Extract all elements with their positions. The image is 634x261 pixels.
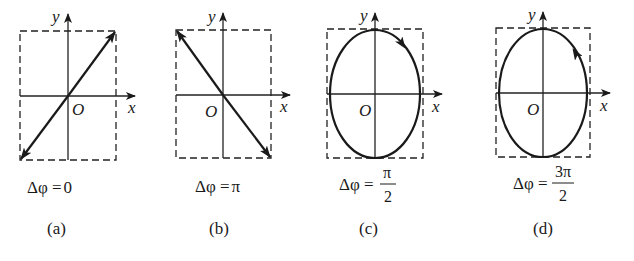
panel-caption: (d) [533,219,553,238]
x-axis-label: x [599,96,608,115]
origin-label: O [359,101,371,120]
x-axis-label: x [279,97,288,116]
panel-caption: (c) [359,219,378,238]
trajectory-line-up [68,32,115,96]
svg-text:Δφ =: Δφ = [513,174,548,193]
phase-label: Δφ = π 2 [339,164,396,205]
x-axis-label: x [127,98,136,117]
lissajous-figure: y x O Δφ =0 (a) y x O Δφ =π (b) y x O Δφ… [0,0,634,261]
trajectory-line-down [21,96,68,159]
trajectory-line-up [177,31,223,95]
origin-label: O [72,100,84,119]
svg-text:Δφ =: Δφ = [339,175,374,194]
fraction-denominator: 2 [384,188,392,205]
x-axis-label: x [431,97,440,116]
phase-label: Δφ =π [195,177,241,196]
panel-caption: (b) [209,219,229,238]
panel-a: y x O Δφ =0 (a) [20,7,136,238]
origin-label: O [527,100,539,119]
trajectory-line-down [223,95,270,157]
panel-d: y x O Δφ = 3π 2 (d) [496,5,610,238]
panel-b: y x O Δφ =π (b) [176,7,290,238]
phase-label: Δφ =0 [27,178,72,197]
y-axis-label: y [50,7,60,26]
phase-label: Δφ = 3π 2 [513,163,574,204]
fraction-numerator: 3π [555,163,571,180]
y-axis-label: y [358,6,368,25]
fraction-denominator: 2 [559,187,567,204]
panel-c: y x O Δφ = π 2 (c) [327,6,442,238]
y-axis-label: y [526,5,536,24]
fraction-numerator: π [383,164,391,181]
origin-label: O [205,102,217,121]
y-axis-label: y [206,7,216,26]
panel-caption: (a) [47,219,66,238]
